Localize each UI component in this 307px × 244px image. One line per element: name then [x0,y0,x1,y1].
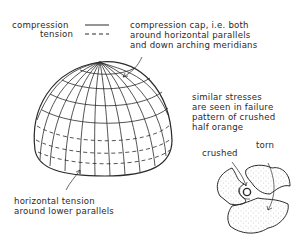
cap-annotation-line-3: and down arching meridians [130,40,257,50]
orange-annotation-line-4: half orange [192,122,243,132]
crushed-orange-illustration [217,165,290,233]
cap-annotation-line-1: compression cap, i.e. both [130,20,249,30]
lower-annotation-line-2: around lower parallels [14,206,114,216]
dome-illustration [34,62,172,176]
cap-annotation-line-2: around horizontal parallels [130,30,250,40]
orange-core [243,188,250,195]
orange-annotation-line-2: are seen in failure [192,102,273,112]
legend-tension-label: tension [40,29,73,39]
torn-label: torn [256,140,274,150]
lower-annotation-line-1: horizontal tension [14,196,95,206]
crushed-label: crushed [202,148,238,158]
orange-annotation-line-1: similar stresses [192,92,262,102]
orange-annotation-line-3: pattern of crushed [192,112,275,122]
